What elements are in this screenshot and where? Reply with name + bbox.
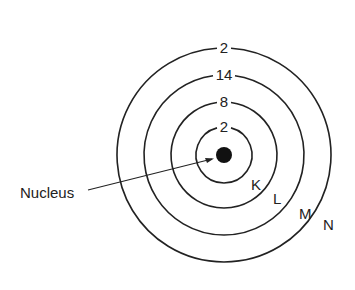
nucleus-dot	[216, 147, 232, 163]
shell-k-electron-count: 2	[220, 118, 228, 135]
atom-diagram: 2K8L14M2N Nucleus	[0, 0, 355, 290]
diagram-canvas: 2K8L14M2N Nucleus	[0, 0, 355, 290]
shell-l-name: L	[273, 190, 281, 207]
shell-m-electron-count: 14	[216, 66, 233, 83]
arrowhead-icon	[205, 158, 214, 163]
shell-n-name: N	[323, 216, 334, 233]
nucleus-label: Nucleus	[20, 184, 74, 201]
shell-n-electron-count: 2	[220, 39, 228, 56]
shell-l-electron-count: 8	[220, 93, 228, 110]
shell-k-name: K	[251, 176, 261, 193]
